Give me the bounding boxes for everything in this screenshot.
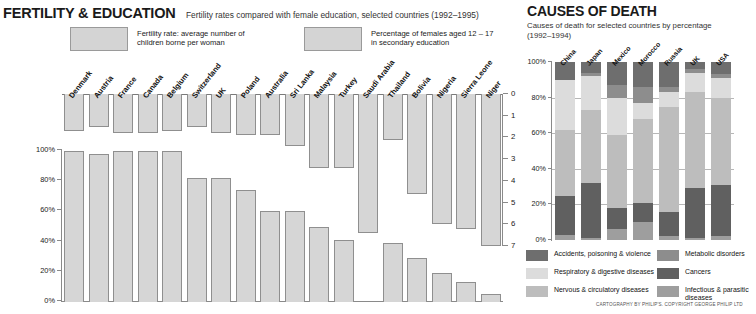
axis-tick: 100%	[528, 57, 552, 66]
legend-swatch-education-pct	[304, 27, 362, 51]
bar-segment	[607, 85, 626, 97]
bar-segment	[581, 76, 600, 110]
legend-item: Accidents, poisoning & violence	[526, 250, 651, 261]
left-axis-tick: 20%	[0, 266, 62, 275]
bar-segment	[633, 87, 652, 103]
stacked-bar-mexico	[607, 62, 626, 240]
right-axis-tick: 1	[503, 111, 515, 120]
legend-label: Nervous & circulatory diseases	[554, 286, 649, 294]
bar-segment	[555, 196, 574, 235]
bar-segment	[607, 208, 626, 229]
fertility-bar	[309, 94, 329, 168]
bar-segment	[633, 119, 652, 203]
education-bar	[138, 151, 158, 302]
bar-segment	[659, 92, 678, 106]
causes-header: CAUSES OF DEATH Causes of death for sele…	[527, 3, 712, 40]
bar-segment	[711, 98, 730, 185]
bar-segment	[685, 92, 704, 188]
bar-segment	[555, 80, 574, 130]
education-bar	[113, 151, 133, 302]
legend-swatch-fertility-rate	[70, 27, 128, 51]
fertility-bar	[211, 94, 231, 133]
education-bar	[309, 227, 329, 303]
causes-title: CAUSES OF DEATH	[527, 3, 712, 19]
bar-segment	[711, 236, 730, 240]
right-axis-tick: 3	[503, 154, 515, 163]
causes-of-death-chart: CAUSES OF DEATH Causes of death for sele…	[524, 0, 756, 314]
left-axis-tick: 0%	[0, 296, 62, 305]
education-bar	[285, 211, 305, 302]
legend-label-fertility-line1: Fertility rate: average number of	[137, 29, 245, 38]
legend-item-fertility-rate: Fertility rate: average number of childr…	[70, 27, 245, 51]
bar-segment	[581, 110, 600, 183]
fertility-title: FERTILITY & EDUCATION	[3, 5, 175, 21]
bar-segment	[659, 212, 678, 237]
bar-segment	[711, 74, 730, 78]
legend-label-education-line2: in secondary education	[371, 38, 493, 47]
legend-label: Cancers	[685, 268, 711, 276]
education-bar	[260, 211, 280, 302]
legend-label: Respiratory & digestive diseases	[554, 268, 654, 276]
bar-segment	[555, 130, 574, 196]
causes-subtitle-line2: (1992–1994)	[527, 31, 712, 41]
bar-segment	[581, 238, 600, 240]
legend-item: Infectious & parasitic diseases	[657, 286, 756, 303]
legend-swatch	[657, 250, 679, 261]
bar-segment	[685, 238, 704, 240]
left-axis-tick: 60%	[0, 205, 62, 214]
fertility-subtitle: Fertility rates compared with female edu…	[186, 10, 479, 20]
stacked-bar-uk	[685, 62, 704, 240]
fertility-bar	[334, 94, 354, 168]
fertility-bar	[285, 94, 305, 146]
bar-segment	[607, 135, 626, 208]
stacked-bar-morocco	[633, 62, 652, 240]
education-bar	[187, 178, 207, 302]
causes-plot-area: 100%80%60%40%20%0% ChinaJapanMexicoMoroc…	[552, 62, 734, 240]
left-axis-tick: 80%	[0, 175, 62, 184]
legend-item: Nervous & circulatory diseases	[526, 286, 649, 297]
legend-swatch	[526, 286, 548, 297]
stacked-bar-japan	[581, 62, 600, 240]
legend-swatch	[657, 286, 679, 297]
fertility-bar	[358, 94, 378, 233]
legend-item: Respiratory & digestive diseases	[526, 268, 654, 279]
bar-segment	[633, 103, 652, 119]
left-axis-tick: 100%	[0, 145, 62, 154]
axis-tick: 40%	[532, 164, 552, 173]
fertility-bar	[456, 94, 476, 229]
fertility-bar	[407, 94, 427, 194]
legend-label: Infectious & parasitic diseases	[685, 286, 756, 303]
bar-segment	[607, 229, 626, 240]
right-axis-tick: 7	[503, 241, 515, 250]
bar-segment	[711, 185, 730, 237]
fertility-bar	[383, 94, 403, 140]
legend-item: Metabolic disorders	[657, 250, 745, 261]
education-bar	[432, 273, 452, 302]
right-axis-tick: 6	[503, 219, 515, 228]
bar-segment	[659, 87, 678, 92]
right-axis-tick: 4	[503, 176, 515, 185]
left-axis-tick: 40%	[0, 236, 62, 245]
fertility-plot-area	[62, 94, 502, 302]
legend-label-education-line1: Percentage of females aged 12 – 17	[371, 29, 493, 38]
legend-item: Cancers	[657, 268, 711, 279]
cartography-credit: CARTOGRAPHY BY PHILIP'S. COPYRIGHT GEORG…	[596, 302, 743, 307]
bar-segment	[659, 107, 678, 212]
bar-segment	[633, 222, 652, 240]
bar-segment	[581, 183, 600, 238]
stacked-bar-usa	[711, 62, 730, 240]
fertility-bar	[113, 94, 133, 133]
causes-subtitle-line1: Causes of death for selected countries b…	[527, 21, 712, 31]
axis-tick: 0%	[536, 235, 552, 244]
education-bar	[383, 243, 403, 302]
right-axis-tick: 5	[503, 198, 515, 207]
legend-swatch	[526, 268, 548, 279]
fertility-legend: Fertility rate: average number of childr…	[70, 27, 520, 57]
fertility-header: FERTILITY & EDUCATION Fertility rates co…	[3, 4, 479, 22]
bar-segment	[685, 73, 704, 93]
legend-label: Metabolic disorders	[685, 250, 745, 258]
stacked-bar-china	[555, 62, 574, 240]
right-axis-tick: 2	[503, 132, 515, 141]
legend-label: Accidents, poisoning & violence	[554, 250, 651, 258]
education-bar	[481, 294, 501, 302]
